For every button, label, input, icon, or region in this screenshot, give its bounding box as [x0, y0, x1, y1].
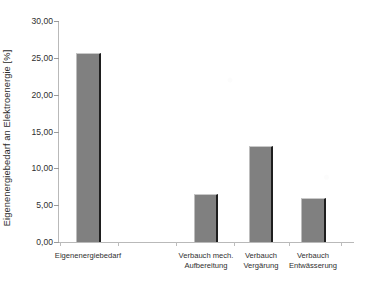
y-tick-label: 10,00 [31, 164, 53, 173]
y-tick-mark [54, 95, 59, 96]
x-axis-category-label: Eigenenergiebedarf [55, 251, 121, 261]
x-tick-mark [234, 242, 235, 246]
y-tick-mark [54, 242, 59, 243]
x-axis-category-label: Verbauch mech. Aufbereitung [179, 251, 234, 270]
bar-chart-figure: Eigenenergiebedarf an Elektroenergie [%]… [0, 0, 371, 286]
x-tick-mark [341, 242, 342, 246]
x-tick-mark [176, 242, 177, 246]
x-axis-category-label: Verbauch Vergärung [243, 251, 278, 270]
bar [194, 194, 218, 242]
y-axis-title: Eigenenergiebedarf an Elektroenergie [%] [0, 22, 14, 254]
y-tick-mark [54, 132, 59, 133]
y-tick-mark [54, 21, 59, 22]
bar [301, 198, 326, 242]
y-tick-mark [54, 168, 59, 169]
y-tick-label: 20,00 [31, 90, 53, 99]
y-tick-label: 5,00 [36, 201, 53, 210]
x-axis-line [58, 242, 354, 243]
y-tick-mark [54, 205, 59, 206]
x-tick-mark [289, 242, 290, 246]
y-tick-label: 15,00 [31, 127, 53, 136]
x-tick-mark [118, 242, 119, 246]
plot-area: 0,005,0010,0015,0020,0025,0030,00 Eigene… [58, 21, 354, 242]
y-tick-label: 25,00 [31, 53, 53, 62]
bar [249, 146, 273, 242]
y-tick-mark [54, 58, 59, 59]
x-axis-category-label: Verbauch Entwässerung [289, 251, 337, 270]
y-tick-label: 0,00 [36, 238, 53, 247]
y-tick-label: 30,00 [31, 17, 53, 26]
bar [76, 53, 101, 242]
x-tick-mark [60, 242, 61, 246]
